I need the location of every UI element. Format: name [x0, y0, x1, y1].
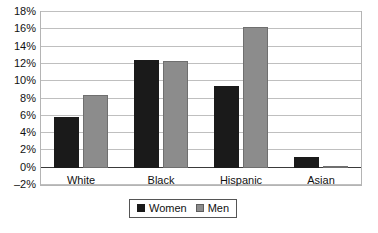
bar-chart: 18%16%14%12%10%8%6%4%2%0%–2% WhiteBlackH…	[0, 0, 378, 233]
legend-item-men[interactable]: Men	[196, 202, 229, 214]
legend-swatch-women-icon	[137, 204, 145, 212]
y-axis-tick-label: –2%	[2, 179, 36, 190]
y-axis-tick-label: 12%	[2, 58, 36, 69]
bar-black-women	[134, 60, 159, 167]
y-axis-tick-label: 2%	[2, 144, 36, 155]
bar-white-women	[54, 117, 79, 168]
y-axis-tick-label: 0%	[2, 162, 36, 173]
bars-layer	[41, 12, 361, 185]
y-axis-tick-label: 18%	[2, 6, 36, 17]
y-axis-tick-label: 14%	[2, 41, 36, 52]
x-axis-label-hispanic: Hispanic	[201, 174, 281, 186]
bar-hispanic-women	[214, 86, 239, 168]
legend-label-men: Men	[208, 202, 229, 214]
y-axis-tick-label: 16%	[2, 23, 36, 34]
legend-item-women[interactable]: Women	[137, 202, 187, 214]
x-axis-label-asian: Asian	[281, 174, 361, 186]
bar-asian-men	[323, 166, 348, 168]
bar-hispanic-men	[243, 27, 268, 168]
y-axis-tick-label: 4%	[2, 127, 36, 138]
x-axis-label-white: White	[41, 174, 121, 186]
y-axis-tick-label: 10%	[2, 75, 36, 86]
legend-swatch-men-icon	[196, 204, 204, 212]
bar-white-men	[83, 95, 108, 168]
bar-asian-women	[294, 157, 319, 168]
y-axis-tick-label: 8%	[2, 93, 36, 104]
bar-black-men	[163, 61, 188, 168]
x-axis-label-black: Black	[121, 174, 201, 186]
legend: Women Men	[129, 199, 237, 218]
legend-label-women: Women	[149, 202, 187, 214]
y-axis-tick-label: 6%	[2, 110, 36, 121]
